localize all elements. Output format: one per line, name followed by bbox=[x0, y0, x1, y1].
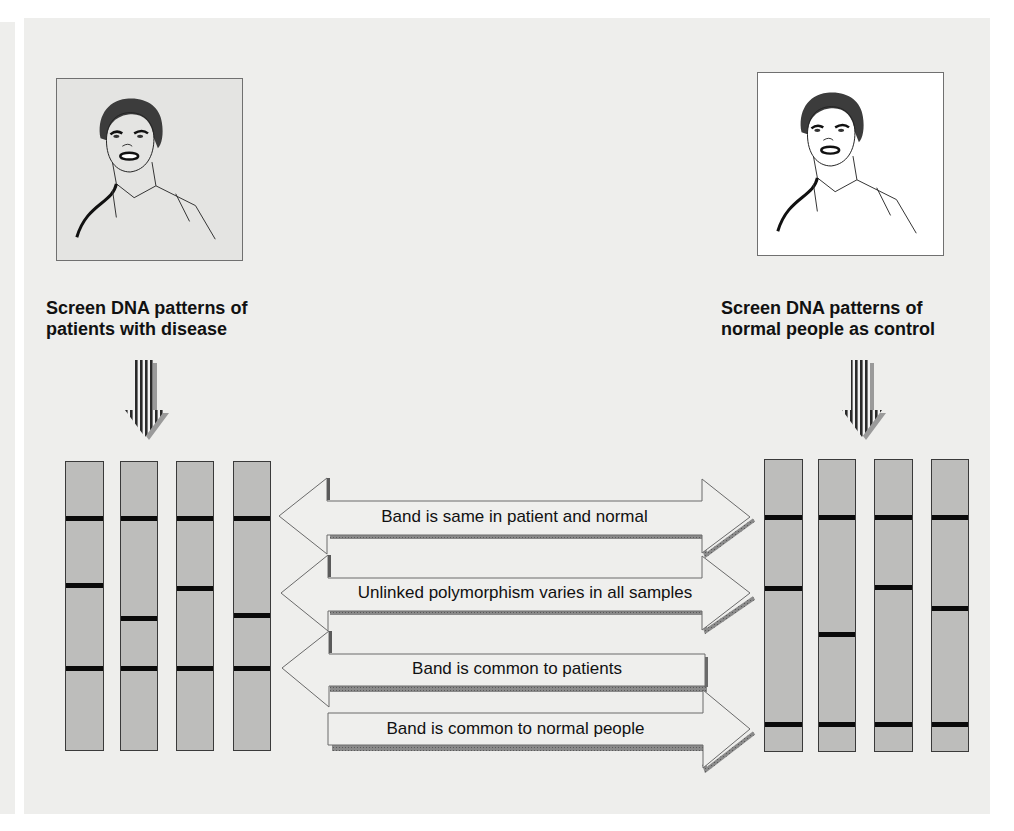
arrow-label: Band is common to normal people bbox=[328, 719, 703, 739]
caption-line: Screen DNA patterns of bbox=[46, 298, 247, 319]
patient-portrait bbox=[56, 78, 243, 261]
gel-band bbox=[177, 516, 213, 521]
gel-band bbox=[819, 632, 855, 637]
gel-band bbox=[875, 585, 912, 590]
gel-band bbox=[932, 515, 968, 520]
person-sketch-icon bbox=[758, 73, 943, 255]
arrow-label: Band is same in patient and normal bbox=[327, 507, 702, 527]
adjacent-panel-edge bbox=[0, 22, 15, 814]
gel-band bbox=[177, 666, 213, 671]
control-lane-3 bbox=[874, 459, 913, 752]
gel-band bbox=[875, 515, 912, 520]
gel-band bbox=[765, 722, 802, 727]
gel-band bbox=[121, 666, 157, 671]
caption-line: Screen DNA patterns of bbox=[721, 298, 935, 319]
gel-band bbox=[121, 616, 157, 621]
gel-band bbox=[819, 722, 855, 727]
gel-band bbox=[66, 516, 103, 521]
gel-band bbox=[932, 722, 968, 727]
person-sketch-icon bbox=[57, 79, 242, 260]
gel-band bbox=[932, 606, 968, 611]
arrow-label: Band is common to patients bbox=[329, 659, 705, 679]
gel-band bbox=[765, 515, 802, 520]
gel-band bbox=[234, 666, 270, 671]
control-lane-1 bbox=[764, 459, 803, 752]
caption-line: patients with disease bbox=[46, 319, 247, 340]
patients-caption: Screen DNA patterns of patients with dis… bbox=[46, 298, 247, 340]
gel-band bbox=[819, 515, 855, 520]
patient-lane-4 bbox=[233, 461, 271, 751]
control-caption: Screen DNA patterns of normal people as … bbox=[721, 298, 935, 340]
gel-band bbox=[875, 722, 912, 727]
control-lane-4 bbox=[931, 459, 969, 752]
control-portrait bbox=[757, 72, 944, 256]
gel-band bbox=[765, 586, 802, 591]
control-lane-2 bbox=[818, 459, 856, 752]
arrow-label: Unlinked polymorphism varies in all samp… bbox=[300, 583, 750, 603]
gel-band bbox=[121, 516, 157, 521]
gel-band bbox=[66, 583, 103, 588]
gel-band bbox=[234, 516, 270, 521]
patient-lane-1 bbox=[65, 461, 104, 751]
gel-band bbox=[234, 613, 270, 618]
patient-lane-2 bbox=[120, 461, 158, 751]
patient-lane-3 bbox=[176, 461, 214, 751]
gel-band bbox=[66, 666, 103, 671]
caption-line: normal people as control bbox=[721, 319, 935, 340]
gel-band bbox=[177, 586, 213, 591]
